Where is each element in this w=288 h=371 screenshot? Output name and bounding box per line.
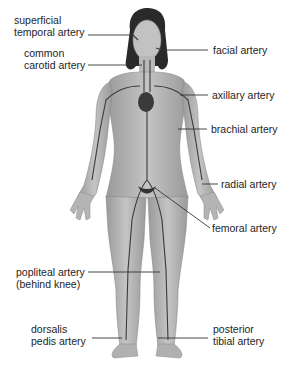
label-line: posterior xyxy=(213,323,264,335)
head xyxy=(133,20,161,60)
label-popliteal-artery: popliteal artery (behind knee) xyxy=(16,266,85,290)
label-line: radial artery xyxy=(221,178,276,190)
label-line: temporal artery xyxy=(14,26,85,38)
label-line: femoral artery xyxy=(212,222,277,234)
label-posterior-tibial-artery: posterior tibial artery xyxy=(213,323,264,347)
label-brachial-artery: brachial artery xyxy=(211,123,278,135)
anatomy-figure: superficial temporal artery common carot… xyxy=(0,0,288,371)
label-line: popliteal artery xyxy=(16,266,85,278)
label-femoral-artery: femoral artery xyxy=(212,222,277,234)
label-line: carotid artery xyxy=(24,59,85,71)
label-line: axillary artery xyxy=(212,89,274,101)
label-line: common xyxy=(24,47,85,59)
label-axillary-artery: axillary artery xyxy=(212,89,274,101)
label-line: superficial xyxy=(14,14,85,26)
label-line: dorsalis xyxy=(31,323,86,335)
right-foot xyxy=(156,344,182,358)
label-common-carotid-artery: common carotid artery xyxy=(24,47,85,71)
label-line: pedis artery xyxy=(31,335,86,347)
heart xyxy=(138,92,154,112)
left-hand xyxy=(70,192,94,220)
left-arm xyxy=(77,82,112,207)
label-radial-artery: radial artery xyxy=(221,178,276,190)
label-line: brachial artery xyxy=(211,123,278,135)
right-hand xyxy=(200,192,224,220)
neck xyxy=(139,56,155,72)
label-line: (behind knee) xyxy=(16,278,85,290)
label-superficial-temporal-artery: superficial temporal artery xyxy=(14,14,85,38)
label-dorsalis-pedis-artery: dorsalis pedis artery xyxy=(31,323,86,347)
label-facial-artery: facial artery xyxy=(213,44,267,56)
label-line: tibial artery xyxy=(213,335,264,347)
label-line: facial artery xyxy=(213,44,267,56)
left-foot xyxy=(112,344,138,358)
